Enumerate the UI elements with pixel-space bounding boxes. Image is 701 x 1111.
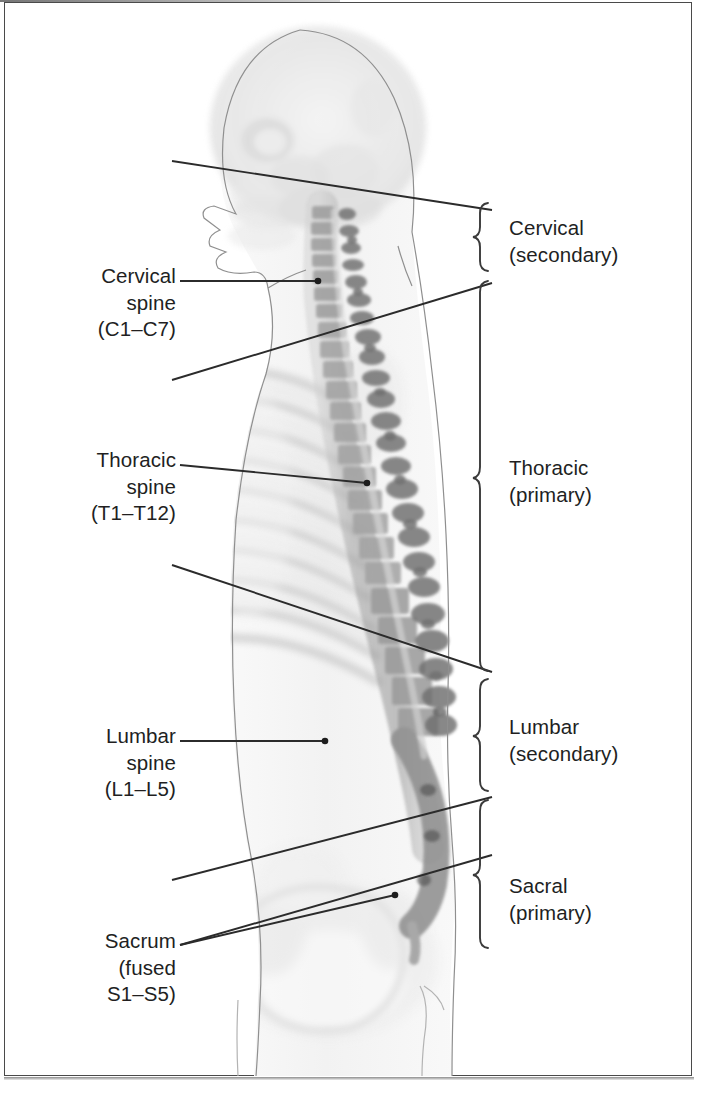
leader-dot-cervical <box>315 278 322 285</box>
brace-sacral <box>473 800 488 948</box>
label-cervical-curvature: Cervical (secondary) <box>509 215 689 268</box>
label-thoracic-curvature: Thoracic (primary) <box>509 455 689 508</box>
leader-dot-lumbar <box>322 738 329 745</box>
brace-lumbar <box>473 679 488 791</box>
label-lumbar-curvature: Lumbar (secondary) <box>509 714 689 767</box>
cervical-thoracic-divider <box>172 161 492 210</box>
thoracic-upper-divider <box>172 283 492 380</box>
leader-dot-sacrum <box>392 892 399 899</box>
sacral-lower-divider <box>180 855 492 945</box>
label-sacrum: Sacrum (fused S1–S5) <box>34 928 176 1008</box>
brace-thoracic <box>473 281 488 671</box>
label-sacral-curvature: Sacral (primary) <box>509 873 689 926</box>
leader-dot-thoracic <box>364 480 371 487</box>
label-lumbar-spine: Lumbar spine (L1–L5) <box>34 723 176 803</box>
label-thoracic-spine: Thoracic spine (T1–T12) <box>34 447 176 527</box>
lumbar-sacral-divider <box>172 797 492 880</box>
label-cervical-spine: Cervical spine (C1–C7) <box>34 263 176 343</box>
thoracic-lumbar-divider <box>172 565 492 672</box>
leader-thoracic-spine <box>180 465 367 483</box>
brace-cervical <box>473 203 488 271</box>
leader-sacrum <box>180 895 395 945</box>
spine-anatomy-figure: Cervical spine (C1–C7) Thoracic spine (T… <box>0 0 701 1111</box>
